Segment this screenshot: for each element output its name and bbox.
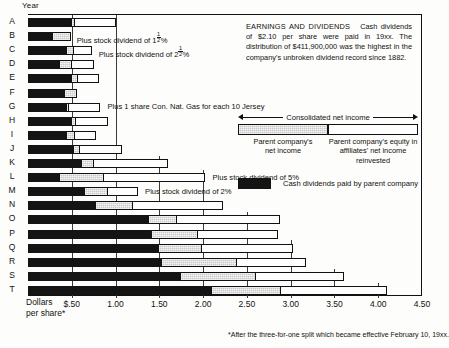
bar-segment-affil	[74, 131, 96, 140]
legend-caption-parent-line2: net income	[238, 146, 328, 155]
row-label-c: C	[0, 45, 24, 54]
bar-row	[28, 117, 108, 126]
bar-segment-cash	[28, 286, 212, 295]
legend-cash-label: Cash dividends paid by parent company	[283, 179, 418, 188]
bar-row	[28, 145, 122, 154]
x-axis-title: Dollars per share*	[26, 297, 65, 319]
bar-row	[28, 159, 168, 168]
gridline	[72, 15, 73, 298]
bar-segment-affil	[79, 145, 122, 154]
row-label-e: E	[0, 73, 24, 82]
bar-row	[28, 272, 344, 281]
x-tick-label: 3.50	[326, 299, 343, 309]
bar-segment-cash	[28, 131, 67, 140]
legend-swatch-cash	[238, 178, 271, 189]
bar-segment-cash	[28, 187, 85, 196]
consolidated-net-income-arrow: Consolidated net income	[238, 112, 418, 123]
x-tick-label: 4.00	[370, 299, 387, 309]
x-axis-title-line2: per share*	[26, 308, 65, 319]
bar-row	[28, 103, 100, 112]
bar-segment-affil	[74, 18, 116, 27]
headline-title: EARNINGS AND DIVIDENDS	[246, 22, 350, 31]
bar-row	[28, 74, 99, 83]
x-axis-title-line1: Dollars	[26, 297, 65, 308]
bar-segment-affil	[255, 272, 344, 281]
headline-textbox: EARNINGS AND DIVIDENDS Cash dividends of…	[246, 22, 412, 63]
x-tick-label: 2.00	[195, 299, 212, 309]
bar-segment-affil	[176, 215, 280, 224]
bar-segment-cash	[28, 215, 149, 224]
row-label-n: N	[0, 200, 24, 209]
x-tick-label: 4.50	[414, 299, 431, 309]
bar-segment-cash	[28, 230, 152, 239]
bar-segment-affil	[71, 60, 95, 69]
bar-segment-parent	[161, 258, 237, 267]
bar-segment-cash	[28, 173, 60, 182]
legend-caption-affiliates-line1: Parent company's equity in	[328, 137, 418, 146]
legend-swatch-affiliates	[328, 124, 418, 135]
row-label-m: M	[0, 186, 24, 195]
row-label-d: D	[0, 59, 24, 68]
annotation-b: Plus stock dividend of 112%	[77, 32, 168, 45]
bar-segment-cash	[28, 32, 53, 41]
legend-caption-parent: Parent company's net income	[238, 137, 328, 165]
row-label-k: K	[0, 158, 24, 167]
bar-row	[28, 32, 71, 41]
bar-segment-affil	[197, 230, 278, 239]
row-label-i: I	[0, 130, 24, 139]
bar-row	[28, 230, 278, 239]
legend-swatch-parent	[238, 124, 328, 135]
bar-segment-cash	[28, 117, 72, 126]
bar-row	[28, 46, 92, 55]
bar-segment-cash	[28, 145, 74, 154]
row-label-l: L	[0, 172, 24, 181]
bar-segment-affil	[107, 187, 138, 196]
row-label-t: T	[0, 285, 24, 294]
bar-row	[28, 187, 138, 196]
row-label-b: B	[0, 31, 24, 40]
bar-segment-cash	[28, 46, 67, 55]
bar-segment-parent	[148, 215, 177, 224]
row-label-h: H	[0, 116, 24, 125]
bar-segment-parent	[95, 201, 133, 210]
bar-segment-parent	[64, 89, 77, 98]
legend: Consolidated net income Parent company's…	[238, 112, 418, 189]
bar-segment-cash	[28, 258, 162, 267]
bar-segment-cash	[28, 201, 96, 210]
bar-segment-affil	[103, 173, 205, 182]
row-label-g: G	[0, 102, 24, 111]
bar-segment-affil	[75, 117, 108, 126]
x-tick-label: 3.00	[282, 299, 299, 309]
bar-segment-affil	[236, 258, 306, 267]
bar-row	[28, 173, 205, 182]
bar-segment-parent	[52, 32, 71, 41]
footnote: *After the three-for-one split which bec…	[228, 331, 449, 338]
bar-segment-parent	[158, 244, 202, 253]
bar-row	[28, 89, 77, 98]
x-tick-label: 1.00	[107, 299, 124, 309]
legend-swatch-bar	[238, 124, 418, 135]
x-tick-label: $.50	[63, 299, 80, 309]
legend-cash-dividends: Cash dividends paid by parent company	[238, 178, 418, 189]
bar-segment-affil	[68, 103, 100, 112]
bar-row	[28, 131, 96, 140]
row-label-j: J	[0, 144, 24, 153]
bar-segment-affil	[77, 74, 99, 83]
bar-segment-cash	[28, 89, 65, 98]
bar-segment-parent	[180, 272, 255, 281]
x-tick-label: 1.50	[151, 299, 168, 309]
bar-segment-cash	[28, 103, 67, 112]
bar-segment-affil	[93, 159, 168, 168]
bar-row	[28, 258, 306, 267]
annotation-c: Plus stock dividend of 212%	[99, 46, 190, 59]
legend-caption-affiliates-line2: affiliates' net income reinvested	[328, 146, 418, 165]
bar-segment-cash	[28, 159, 82, 168]
legend-captions: Parent company's net income Parent compa…	[238, 137, 418, 165]
bar-segment-affil	[132, 201, 223, 210]
bar-segment-affil	[280, 286, 387, 295]
y-axis-title: Year	[22, 1, 39, 10]
bar-row	[28, 60, 94, 69]
consolidated-net-income-label: Consolidated net income	[238, 112, 418, 123]
row-label-a: A	[0, 17, 24, 26]
